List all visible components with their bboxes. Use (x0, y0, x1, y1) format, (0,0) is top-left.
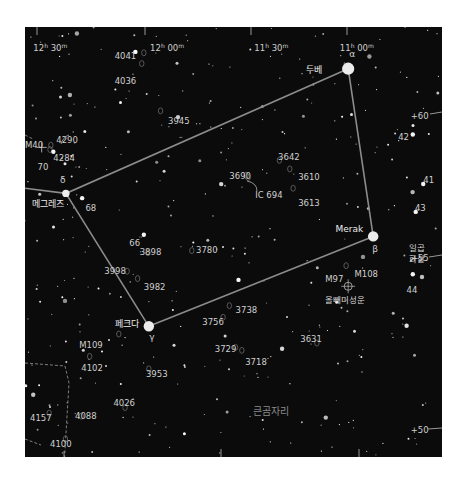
field-star (31, 393, 35, 397)
field-star (72, 217, 73, 218)
field-star (88, 287, 89, 288)
field-star (204, 366, 205, 367)
field-star (250, 416, 251, 417)
field-star (170, 215, 172, 217)
field-star (39, 301, 41, 303)
field-star (274, 109, 275, 110)
field-star (358, 84, 359, 85)
deep-sky-label: 4100 (50, 439, 72, 449)
deep-sky-label: 4290 (56, 135, 78, 145)
field-star (105, 147, 106, 148)
field-star (293, 174, 294, 175)
named-star-megrez (62, 190, 69, 197)
field-star (106, 169, 107, 170)
constellation-name: 큰곰자리 (253, 406, 289, 417)
field-star (168, 205, 170, 207)
field-star (73, 278, 74, 279)
field-star (416, 444, 417, 445)
star-greek-phecda: γ (149, 332, 155, 342)
field-star (244, 253, 246, 255)
field-star (161, 125, 162, 126)
field-star (49, 406, 51, 408)
deep-sky-label: 3982 (144, 282, 166, 292)
field-star (101, 49, 102, 50)
field-star (32, 105, 34, 107)
field-star (292, 331, 293, 332)
galaxy-symbol (344, 263, 348, 269)
field-star (405, 27, 406, 28)
field-star (336, 400, 337, 401)
field-star (177, 383, 178, 384)
field-star (375, 66, 377, 68)
field-star (402, 336, 403, 337)
deep-sky-label: 3729 (215, 344, 237, 354)
field-star (67, 423, 68, 424)
field-star (69, 114, 72, 117)
field-star (263, 429, 264, 430)
field-star (350, 113, 353, 116)
deep-sky-label: 3718 (245, 357, 267, 367)
field-star (38, 384, 40, 386)
deep-sky-label: M109 (79, 340, 103, 350)
galaxy-symbol (227, 303, 231, 309)
field-star (220, 432, 221, 433)
field-star (245, 248, 246, 249)
deep-sky-label: 3613 (298, 198, 320, 208)
field-star (305, 147, 306, 148)
field-star (382, 443, 383, 444)
field-star (63, 239, 64, 240)
field-star (123, 417, 124, 418)
field-star (360, 356, 362, 358)
field-star (73, 104, 74, 105)
field-star (231, 142, 232, 143)
field-star (334, 120, 335, 121)
field-star (221, 128, 222, 129)
field-star (289, 383, 290, 384)
field-star (290, 442, 291, 443)
field-star (129, 90, 130, 91)
field-star (392, 337, 393, 338)
numbered-star (411, 272, 415, 276)
field-star (284, 133, 285, 134)
field-star (159, 180, 160, 181)
field-star (271, 28, 272, 29)
field-star (206, 239, 209, 242)
field-star (348, 422, 349, 423)
field-star (269, 228, 270, 229)
field-star (172, 309, 174, 311)
field-star (343, 177, 344, 178)
field-star (428, 133, 430, 135)
deep-sky-label: 3998 (104, 266, 126, 276)
ra-label: 12h 30m (33, 42, 67, 53)
numbered-star (80, 196, 84, 200)
field-star (379, 39, 380, 40)
field-star (281, 54, 282, 55)
deep-sky-label: 4157 (30, 413, 52, 423)
field-star (57, 286, 58, 287)
field-star (306, 99, 308, 101)
field-star (149, 434, 151, 436)
field-star (353, 427, 354, 428)
field-star (168, 155, 170, 157)
dec-label: +50 (411, 425, 429, 435)
galaxy-symbol (140, 61, 144, 67)
field-star (262, 119, 263, 120)
field-star (392, 312, 395, 315)
field-star (222, 246, 224, 248)
field-star (376, 147, 377, 148)
numbered-star-label: 68 (85, 203, 96, 213)
field-star (334, 83, 335, 84)
field-star (148, 301, 149, 302)
field-star (94, 106, 95, 107)
field-star (350, 136, 351, 137)
field-star (315, 36, 316, 37)
field-star (316, 266, 319, 269)
field-star (198, 159, 201, 162)
field-star (248, 262, 249, 263)
field-star (74, 298, 75, 299)
field-star (309, 331, 310, 332)
field-star (125, 337, 126, 338)
field-star (31, 365, 32, 366)
field-star (257, 377, 258, 378)
field-star (402, 318, 404, 320)
